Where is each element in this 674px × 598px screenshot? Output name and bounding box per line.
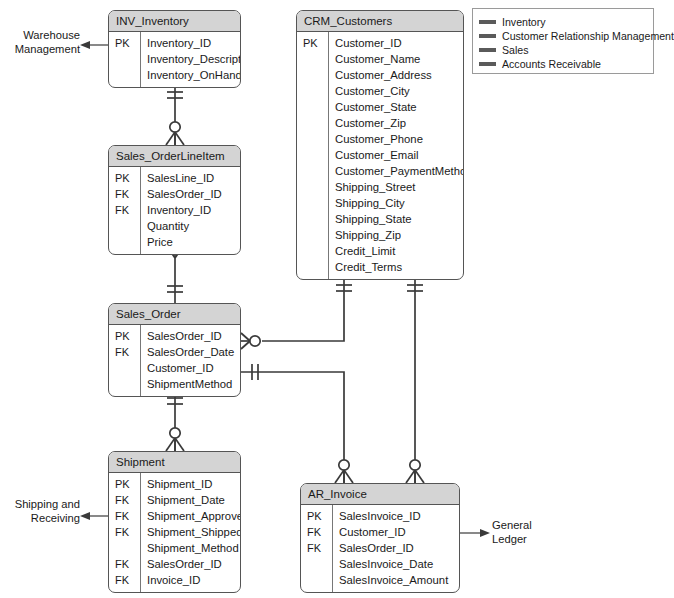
entity-title-inv_inventory: INV_Inventory (109, 11, 240, 32)
entity-crm_customers[interactable]: CRM_CustomersPKCustomer_IDCustomer_NameC… (296, 10, 464, 280)
entity-sales_order[interactable]: Sales_OrderPKSalesOrder_IDFKSalesOrder_D… (108, 303, 241, 397)
annotation-leader-shipping (80, 512, 108, 520)
attribute-row[interactable]: FKShipment_Approver (109, 508, 240, 524)
entity-sales_orderlineitem[interactable]: Sales_OrderLineItemPKSalesLine_IDFKSales… (108, 145, 241, 255)
entity-inv_inventory[interactable]: INV_InventoryPKInventory_IDInventory_Des… (108, 10, 241, 88)
legend-item[interactable]: Customer Relationship Management (479, 29, 645, 43)
attribute-name: Customer_ID (140, 362, 214, 374)
key-column-divider (140, 167, 141, 254)
attribute-key: FK (301, 542, 332, 554)
attribute-name: Shipment_Approver (140, 510, 241, 522)
attribute-name: Customer_Phone (328, 133, 423, 145)
attribute-row[interactable]: Customer_Address (297, 67, 463, 83)
attribute-row[interactable]: Customer_Phone (297, 131, 463, 147)
attribute-row[interactable]: Inventory_Description (109, 51, 240, 67)
attribute-row[interactable]: FKInventory_ID (109, 202, 240, 218)
attribute-row[interactable]: PKSalesLine_ID (109, 170, 240, 186)
annotation-leader-warehouse (80, 41, 108, 49)
attribute-row[interactable]: FKCustomer_ID (301, 524, 459, 540)
key-column-divider (332, 505, 333, 592)
legend-item-label: Inventory (502, 16, 546, 28)
attribute-row[interactable]: SalesInvoice_Amount (301, 572, 459, 588)
attribute-row[interactable]: Price (109, 234, 240, 250)
attribute-name: Inventory_ID (140, 37, 211, 49)
attribute-name: Shipping_State (328, 213, 412, 225)
entity-ar_invoice[interactable]: AR_InvoicePKSalesInvoice_IDFKCustomer_ID… (300, 483, 460, 593)
attribute-name: Invoice_ID (140, 574, 200, 586)
attribute-name: Shipment_ShippedBy (140, 526, 241, 538)
key-column-divider (140, 325, 141, 396)
attribute-name: Inventory_OnHand (140, 69, 241, 81)
attribute-name: Credit_Terms (328, 261, 402, 273)
attribute-name: SalesOrder_ID (140, 330, 222, 342)
attribute-row[interactable]: PKInventory_ID (109, 35, 240, 51)
attribute-row[interactable]: Shipment_Method (109, 540, 240, 556)
attribute-row[interactable]: ShipmentMethod (109, 376, 240, 392)
entity-attributes-sales_orderlineitem: PKSalesLine_IDFKSalesOrder_IDFKInventory… (109, 167, 240, 254)
edge-customers-to-invoice (406, 277, 424, 483)
key-column-divider (140, 32, 141, 87)
legend-line-swatch-icon (479, 34, 496, 38)
edge-order-to-shipment (166, 390, 184, 451)
attribute-key: FK (301, 526, 332, 538)
attribute-name: ShipmentMethod (140, 378, 232, 390)
attribute-row[interactable]: FKSalesOrder_ID (109, 556, 240, 572)
attribute-name: Customer_Email (328, 149, 419, 161)
attribute-row[interactable]: FKInvoice_ID (109, 572, 240, 588)
legend-item[interactable]: Accounts Receivable (479, 57, 645, 71)
attribute-key: FK (109, 204, 140, 216)
attribute-name: Shipment_ID (140, 478, 212, 490)
attribute-row[interactable]: PKSalesOrder_ID (109, 328, 240, 344)
legend-line-swatch-icon (479, 62, 496, 66)
attribute-name: SalesInvoice_Date (332, 558, 433, 570)
attribute-row[interactable]: Credit_Terms (297, 259, 463, 275)
legend-item-label: Sales (502, 44, 529, 56)
attribute-row[interactable]: FKSalesOrder_ID (109, 186, 240, 202)
attribute-key: PK (297, 37, 328, 49)
attribute-row[interactable]: SalesInvoice_Date (301, 556, 459, 572)
attribute-name: Customer_Name (328, 53, 420, 65)
attribute-row[interactable]: PKSalesInvoice_ID (301, 508, 459, 524)
attribute-name: Quantity (140, 220, 189, 232)
attribute-row[interactable]: Quantity (109, 218, 240, 234)
attribute-row[interactable]: Customer_Name (297, 51, 463, 67)
attribute-row[interactable]: Customer_Email (297, 147, 463, 163)
attribute-row[interactable]: Shipping_State (297, 211, 463, 227)
legend-item[interactable]: Inventory (479, 15, 645, 29)
attribute-name: Customer_State (328, 101, 417, 113)
attribute-key: FK (109, 574, 140, 586)
attribute-name: Shipping_City (328, 197, 405, 209)
attribute-row[interactable]: Inventory_OnHand (109, 67, 240, 83)
attribute-row[interactable]: Customer_ID (109, 360, 240, 376)
attribute-row[interactable]: Customer_Zip (297, 115, 463, 131)
attribute-row[interactable]: PKShipment_ID (109, 476, 240, 492)
attribute-row[interactable]: Shipping_Zip (297, 227, 463, 243)
attribute-row[interactable]: FKShipment_Date (109, 492, 240, 508)
attribute-name: Credit_Limit (328, 245, 395, 257)
annotation-line: Ledger (492, 532, 564, 546)
annotation-line: Warehouse (8, 28, 80, 42)
attribute-key: FK (109, 188, 140, 200)
legend-line-swatch-icon (479, 20, 496, 24)
attribute-key: PK (109, 172, 140, 184)
attribute-row[interactable]: PKCustomer_ID (297, 35, 463, 51)
attribute-row[interactable]: FKSalesOrder_ID (301, 540, 459, 556)
attribute-name: Customer_Zip (328, 117, 406, 129)
attribute-row[interactable]: Customer_State (297, 99, 463, 115)
attribute-row[interactable]: Shipping_City (297, 195, 463, 211)
edge-order-to-invoice (241, 364, 353, 483)
legend-item[interactable]: Sales (479, 43, 645, 57)
entity-shipment[interactable]: ShipmentPKShipment_IDFKShipment_DateFKSh… (108, 451, 241, 593)
attribute-row[interactable]: Customer_PaymentMethod (297, 163, 463, 179)
annotation-line: General (492, 518, 564, 532)
attribute-row[interactable]: FKSalesOrder_Date (109, 344, 240, 360)
attribute-name: Customer_PaymentMethod (328, 165, 464, 177)
attribute-key: FK (109, 494, 140, 506)
attribute-name: SalesOrder_Date (140, 346, 234, 358)
attribute-row[interactable]: Customer_City (297, 83, 463, 99)
key-column-divider (140, 473, 141, 592)
attribute-row[interactable]: Credit_Limit (297, 243, 463, 259)
attribute-row[interactable]: Shipping_Street (297, 179, 463, 195)
attribute-row[interactable]: FKShipment_ShippedBy (109, 524, 240, 540)
attribute-key: FK (109, 558, 140, 570)
